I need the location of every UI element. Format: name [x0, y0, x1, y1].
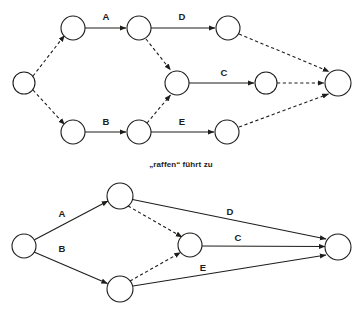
bottom-node [107, 276, 133, 302]
edge-bottom-node-2-to-middle-node [147, 95, 171, 123]
edge-c-middle-node-to-end-node [202, 246, 325, 247]
middle-right-node [255, 72, 277, 94]
edge-bottom-node-to-middle-node [130, 253, 181, 282]
bottom-node-2 [127, 120, 151, 144]
edge-top-node-3-to-end-node [239, 34, 329, 72]
top-node-2 [127, 16, 151, 40]
edge-label-e: E [179, 116, 185, 127]
figure-caption: „raffen“ führt zu [149, 160, 212, 169]
edge-a-start-to-top-node [34, 201, 108, 240]
edge-bottom-node-3-to-end-node [239, 94, 329, 127]
expanded-activity-graph: A D C B E [13, 11, 351, 144]
bottom-node-3 [215, 120, 239, 144]
condensed-activity-graph: A B D C E [12, 183, 351, 302]
edge-label-c: C [221, 67, 228, 78]
top-node-3 [216, 16, 240, 40]
edge-top-node-to-middle-node [128, 206, 182, 237]
edge-label-a: A [59, 208, 66, 219]
end-node [325, 234, 351, 260]
edge-label-a: A [103, 11, 110, 22]
edge-b-start-to-bottom-node [34, 252, 108, 284]
middle-node [178, 233, 202, 257]
edge-label-c: C [235, 232, 242, 243]
start-node [13, 72, 35, 94]
end-node [325, 70, 351, 96]
edge-label-d: D [227, 206, 234, 217]
edge-start-to-top-node-1 [33, 36, 65, 77]
edge-top-node-2-to-middle-node [146, 39, 171, 70]
edge-label-e: E [200, 262, 206, 273]
edge-label-b: B [103, 116, 110, 127]
middle-node [165, 71, 189, 95]
edge-start-to-bottom-node-1 [33, 90, 65, 125]
start-node [12, 234, 36, 258]
activity-graph-figure: A D C B E „raffen“ führt zu [0, 0, 363, 313]
edge-label-d: D [179, 11, 186, 22]
figure-canvas: A D C B E „raffen“ führt zu [0, 0, 363, 313]
bottom-node-1 [61, 120, 85, 144]
edge-e-bottom-node-to-end-node [133, 255, 326, 286]
edge-label-b: B [59, 243, 66, 254]
top-node-1 [61, 16, 85, 40]
top-node [107, 183, 133, 209]
